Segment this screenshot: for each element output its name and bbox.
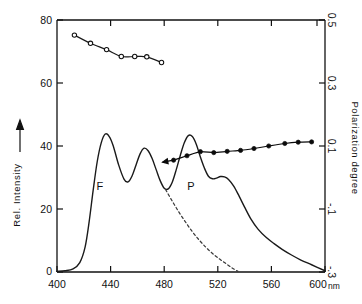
- spectrum-chart: 400 440 480 520 560 600 nm 80 60 40 20 0…: [0, 0, 362, 304]
- open-circle-marker: [119, 54, 123, 58]
- x-tick-label-560: 560: [263, 278, 281, 290]
- x-tick-label-400: 400: [48, 278, 66, 290]
- phosphorescence-label: P: [187, 180, 194, 192]
- tick-marks: [57, 20, 325, 272]
- left-axis-title: Rel. Intensity: [11, 163, 22, 226]
- filled-circle-marker: [283, 141, 287, 145]
- y-tick-label-right--0.1: -.1: [326, 203, 338, 215]
- filled-circle-marker: [171, 158, 175, 162]
- figure-container: 400 440 480 520 560 600 nm 80 60 40 20 0…: [0, 0, 362, 304]
- open-circle-marker: [145, 55, 149, 59]
- open-circle-marker: [88, 41, 92, 45]
- filled-circle-marker: [225, 149, 229, 153]
- x-tick-labels: 400 440 480 520 560 600: [48, 278, 327, 290]
- x-tick-label-480: 480: [155, 278, 173, 290]
- x-tick-label-440: 440: [102, 278, 120, 290]
- open-circle-marker: [159, 60, 163, 64]
- right-y-tick-labels: 0.5 0.3 0.1 -.1 -.3: [326, 13, 338, 279]
- left-axis-arrow-icon: [17, 120, 24, 152]
- filled-circle-marker: [252, 146, 256, 150]
- open-circle-marker: [104, 47, 108, 51]
- filled-circle-marker: [296, 140, 300, 144]
- y-tick-label-left-60: 60: [40, 77, 52, 89]
- x-axis-unit-label: nm: [328, 281, 340, 291]
- y-tick-label-left-40: 40: [40, 140, 52, 152]
- open-circle-marker: [72, 33, 76, 37]
- y-tick-label-left-0: 0: [46, 265, 52, 277]
- filled-circle-marker: [212, 151, 216, 155]
- y-tick-label-left-20: 20: [40, 203, 52, 215]
- x-tick-label-520: 520: [209, 278, 227, 290]
- y-tick-label-right-0.3: 0.3: [326, 76, 338, 91]
- filled-circle-marker: [238, 148, 242, 152]
- y-tick-label-right--0.3: -.3: [326, 266, 338, 278]
- filled-circle-marker: [198, 150, 202, 154]
- y-tick-label-right-0.1: 0.1: [326, 139, 338, 154]
- axes-frame: [57, 20, 325, 272]
- filled-circle-marker: [310, 140, 314, 144]
- left-y-tick-labels: 80 60 40 20 0: [40, 14, 52, 277]
- fluorescence-component-curve: [166, 189, 238, 271]
- plot-curves: [57, 35, 325, 271]
- filled-circle-marker: [267, 144, 271, 148]
- y-tick-label-right-0.5: 0.5: [326, 13, 338, 28]
- polarization-excitation-markers: [72, 33, 164, 65]
- x-tick-label-600: 600: [309, 278, 327, 290]
- fluorescence-label: F: [97, 180, 104, 192]
- open-circle-marker: [133, 54, 137, 58]
- filled-circle-marker: [185, 154, 189, 158]
- y-tick-label-left-80: 80: [40, 14, 52, 26]
- right-axis-title: Polarization degree: [350, 101, 361, 194]
